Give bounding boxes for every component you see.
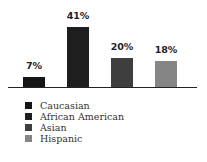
chart-legend: Caucasian African American Asian Hispani… <box>25 100 124 144</box>
legend-swatch <box>25 102 32 109</box>
value-label: 20% <box>102 41 142 52</box>
legend-label: Asian <box>40 122 67 133</box>
legend-item-caucasian: Caucasian <box>25 100 124 111</box>
legend-swatch <box>25 124 32 131</box>
legend-swatch <box>25 113 32 120</box>
x-axis-baseline <box>8 87 197 88</box>
legend-item-asian: Asian <box>25 122 124 133</box>
value-label: 41% <box>58 10 98 21</box>
legend-label: African American <box>40 111 124 122</box>
legend-label: Hispanic <box>40 133 82 144</box>
value-label: 18% <box>146 44 186 55</box>
bar-african-american <box>67 27 89 87</box>
legend-swatch <box>25 135 32 142</box>
value-label: 7% <box>14 60 54 71</box>
legend-label: Caucasian <box>40 100 90 111</box>
legend-item-african-american: African American <box>25 111 124 122</box>
legend-item-hispanic: Hispanic <box>25 133 124 144</box>
bar-hispanic <box>155 61 177 87</box>
bar-asian <box>111 58 133 87</box>
bar-chart: 7%41%20%18% <box>0 0 207 95</box>
bar-caucasian <box>23 77 45 87</box>
